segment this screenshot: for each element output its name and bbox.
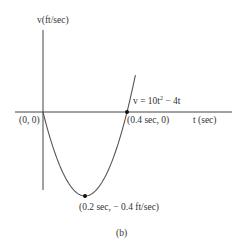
- x-axis-label: t (sec): [193, 116, 216, 126]
- origin-label: (0, 0): [19, 116, 40, 126]
- minimum-label: (0.2 sec, − 0.4 ft/sec): [79, 203, 159, 213]
- velocity-curve: [43, 75, 135, 196]
- root-point: [125, 110, 129, 114]
- minimum-point: [83, 194, 87, 198]
- caption: (b): [116, 229, 127, 239]
- root-label: (0.4 sec, 0): [127, 116, 169, 126]
- y-axis-label: v(ft/sec): [37, 16, 69, 26]
- equation-label: v = 10t2 − 4t: [133, 95, 181, 107]
